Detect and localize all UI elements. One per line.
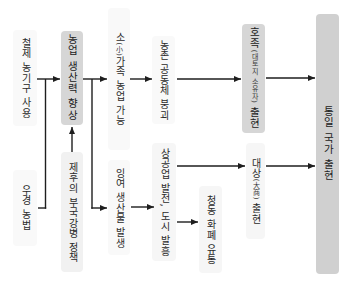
diagram-edges <box>0 0 357 290</box>
